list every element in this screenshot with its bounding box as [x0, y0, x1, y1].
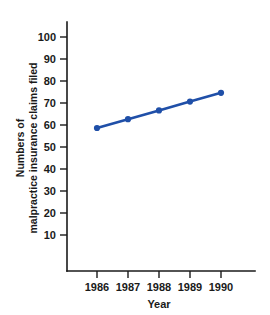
y-tick-label: 100 [38, 31, 56, 43]
x-tick-label: 1987 [116, 281, 140, 293]
data-point-1986 [94, 125, 100, 131]
y-axis-ticks [60, 37, 67, 235]
y-axis-tick-labels: 100 90 80 70 60 50 40 30 20 10 [38, 31, 56, 241]
y-tick-label: 50 [44, 141, 56, 153]
x-tick-label: 1988 [147, 281, 171, 293]
x-axis-title: Year [147, 298, 171, 310]
y-tick-label: 90 [44, 53, 56, 65]
data-point-1987 [125, 116, 131, 122]
series-markers-claims [94, 90, 224, 131]
y-axis-title: Numbers of malpractice insurance claims … [14, 63, 39, 234]
y-tick-label: 10 [44, 229, 56, 241]
y-tick-label: 70 [44, 97, 56, 109]
y-tick-label: 80 [44, 75, 56, 87]
y-tick-label: 40 [44, 163, 56, 175]
data-point-1989 [187, 99, 193, 105]
x-tick-label: 1986 [85, 281, 109, 293]
chart-page: 100 90 80 70 60 50 40 30 20 10 [0, 0, 270, 315]
x-axis-ticks [97, 271, 221, 278]
y-axis-title-line2: malpractice insurance claims filed [27, 63, 39, 234]
data-point-1990 [218, 90, 224, 96]
line-chart-figure: 100 90 80 70 60 50 40 30 20 10 [0, 0, 270, 315]
chart-canvas: 100 90 80 70 60 50 40 30 20 10 [0, 0, 270, 315]
y-tick-label: 60 [44, 119, 56, 131]
y-tick-label: 20 [44, 207, 56, 219]
x-tick-label: 1990 [209, 281, 233, 293]
y-axis-title-line1: Numbers of [14, 118, 26, 177]
x-axis-tick-labels: 1986 1987 1988 1989 1990 [85, 281, 233, 293]
x-tick-label: 1989 [178, 281, 202, 293]
y-tick-label: 30 [44, 185, 56, 197]
data-point-1988 [156, 107, 162, 113]
